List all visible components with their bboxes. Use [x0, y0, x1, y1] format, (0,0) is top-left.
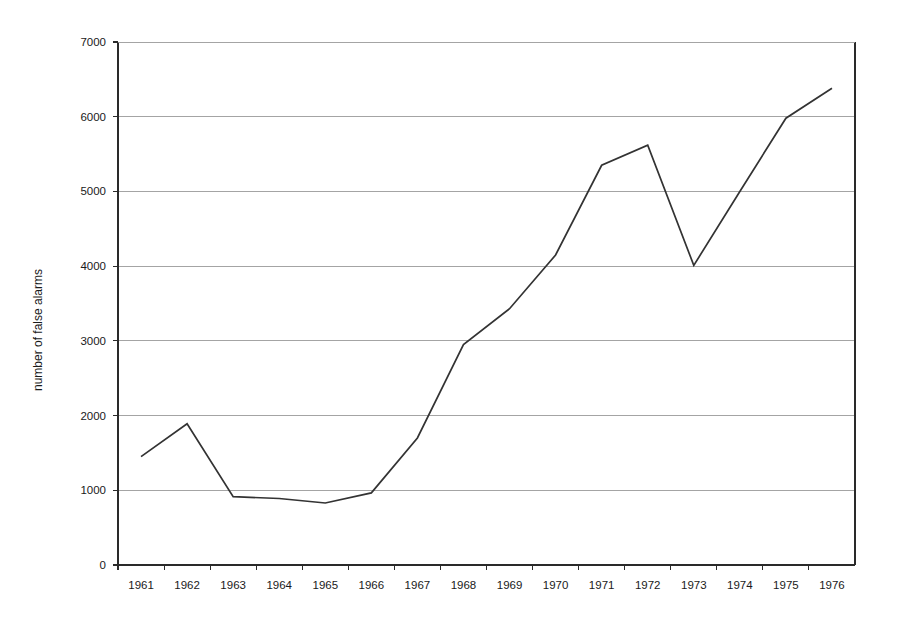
- series-line-false-alarms: [141, 88, 832, 503]
- x-tick-label-1973: 1973: [681, 579, 707, 591]
- x-tick-label-1972: 1972: [635, 579, 661, 591]
- y-tick-label-2000: 2000: [80, 410, 106, 422]
- x-tick-label-1968: 1968: [451, 579, 477, 591]
- y-tick-label-1000: 1000: [80, 484, 106, 496]
- x-axis-ticks-group: 1961196219631964196519661967196819691970…: [118, 565, 845, 591]
- y-tick-label-5000: 5000: [80, 185, 106, 197]
- x-tick-label-1961: 1961: [128, 579, 154, 591]
- y-tick-label-7000: 7000: [80, 36, 106, 48]
- x-tick-label-1965: 1965: [312, 579, 338, 591]
- x-tick-label-1966: 1966: [359, 579, 385, 591]
- x-tick-label-1969: 1969: [497, 579, 523, 591]
- y-tick-label-3000: 3000: [80, 335, 106, 347]
- plot-frame: [118, 42, 855, 565]
- line-chart: 01000200030004000500060007000 1961196219…: [0, 0, 897, 641]
- x-tick-label-1974: 1974: [727, 579, 753, 591]
- chart-container: 01000200030004000500060007000 1961196219…: [0, 0, 897, 641]
- y-axis-title: number of false alarms: [31, 269, 45, 391]
- x-tick-label-1975: 1975: [773, 579, 799, 591]
- x-tick-label-1970: 1970: [543, 579, 569, 591]
- y-tick-label-0: 0: [100, 559, 106, 571]
- y-tick-label-4000: 4000: [80, 260, 106, 272]
- x-tick-label-1967: 1967: [405, 579, 431, 591]
- y-tick-label-6000: 6000: [80, 111, 106, 123]
- x-tick-label-1962: 1962: [174, 579, 200, 591]
- x-tick-label-1976: 1976: [819, 579, 845, 591]
- y-axis-ticks-group: 01000200030004000500060007000: [80, 36, 118, 571]
- x-tick-label-1963: 1963: [220, 579, 246, 591]
- series-group: [141, 88, 832, 503]
- x-tick-label-1964: 1964: [266, 579, 292, 591]
- x-tick-label-1971: 1971: [589, 579, 615, 591]
- gridlines-group: [118, 117, 855, 491]
